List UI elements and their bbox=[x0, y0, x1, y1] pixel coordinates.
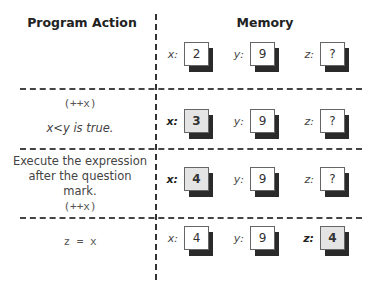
action-code: (++x) bbox=[10, 199, 150, 214]
memory-z: z: 4 bbox=[296, 226, 345, 250]
memory-y: y: 9 bbox=[226, 42, 275, 66]
memory-y: y: 9 bbox=[226, 167, 275, 191]
memory-value-z: ? bbox=[320, 42, 345, 66]
memory-value-y: 9 bbox=[250, 167, 275, 191]
row-divider bbox=[20, 148, 362, 150]
memory-z: z: ? bbox=[296, 167, 345, 191]
memory-label-x: x: bbox=[160, 232, 178, 245]
memory-label-x: x: bbox=[160, 48, 178, 61]
memory-value-x: 4 bbox=[184, 167, 209, 191]
program-action: Execute the expression after the questio… bbox=[10, 154, 150, 214]
memory-value-x: 4 bbox=[184, 226, 209, 250]
memory-x: x: 4 bbox=[160, 226, 209, 250]
memory-y: y: 9 bbox=[226, 226, 275, 250]
memory-label-y: y: bbox=[226, 232, 244, 245]
memory-value-x: 2 bbox=[184, 42, 209, 66]
row-divider bbox=[20, 88, 362, 90]
memory-label-z: z: bbox=[296, 232, 314, 245]
memory-label-y: y: bbox=[226, 173, 244, 186]
action-text-line: Execute the expression bbox=[10, 154, 150, 169]
memory-value-z: 4 bbox=[320, 226, 345, 250]
memory-x: x: 4 bbox=[160, 167, 209, 191]
memory-value-z: ? bbox=[320, 109, 345, 133]
program-action: z = x bbox=[10, 234, 150, 249]
memory-label-x: x: bbox=[160, 115, 178, 128]
memory-label-z: z: bbox=[296, 115, 314, 128]
action-code: (++x) bbox=[10, 96, 150, 111]
memory-label-y: y: bbox=[226, 115, 244, 128]
memory-z: z: ? bbox=[296, 109, 345, 133]
memory-value-z: ? bbox=[320, 167, 345, 191]
memory-value-y: 9 bbox=[250, 42, 275, 66]
memory-x: x: 2 bbox=[160, 42, 209, 66]
memory-z: z: ? bbox=[296, 42, 345, 66]
action-code: z = x bbox=[10, 234, 150, 249]
memory-label-y: y: bbox=[226, 48, 244, 61]
memory-value-y: 9 bbox=[250, 109, 275, 133]
program-action-header: Program Action bbox=[20, 15, 144, 30]
action-text-line: after the question mark. bbox=[10, 169, 150, 199]
column-divider bbox=[155, 14, 157, 280]
row-divider bbox=[20, 217, 362, 219]
memory-label-x: x: bbox=[160, 173, 178, 186]
memory-label-z: z: bbox=[296, 48, 314, 61]
memory-value-x: 3 bbox=[184, 109, 209, 133]
memory-header: Memory bbox=[180, 15, 350, 30]
memory-value-y: 9 bbox=[250, 226, 275, 250]
memory-y: y: 9 bbox=[226, 109, 275, 133]
program-action: (++x) x<y is true. bbox=[10, 96, 150, 136]
action-condition: x<y is true. bbox=[10, 121, 150, 136]
memory-x: x: 3 bbox=[160, 109, 209, 133]
memory-label-z: z: bbox=[296, 173, 314, 186]
